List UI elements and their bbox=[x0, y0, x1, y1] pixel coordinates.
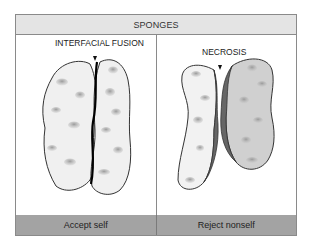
nonself-rejection-sponges bbox=[178, 59, 274, 189]
sponge-illustrations bbox=[0, 0, 310, 247]
necrosis-arrow-icon bbox=[218, 65, 222, 70]
fusion-arrow-icon bbox=[93, 56, 97, 61]
right-sponge-nonself bbox=[226, 59, 274, 169]
self-fusion-sponges bbox=[43, 56, 131, 194]
